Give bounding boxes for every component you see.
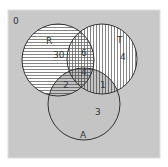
region-t-only: 4 xyxy=(120,52,126,62)
region-r-t-a: 4 xyxy=(81,67,87,77)
set-r-label: R xyxy=(46,36,52,46)
set-t-label: T xyxy=(116,35,123,45)
region-r-and-a: 2 xyxy=(63,80,69,90)
region-t-and-a: 1 xyxy=(100,80,106,90)
region-r-only: 30 xyxy=(53,50,65,60)
venn-diagram: 0 R T A 30 4 3 6 2 1 4 xyxy=(0,0,168,167)
region-r-and-t: 6 xyxy=(81,48,87,58)
set-a-label: A xyxy=(80,130,87,140)
universe-label: 0 xyxy=(13,16,19,26)
region-a-only: 3 xyxy=(95,107,101,117)
